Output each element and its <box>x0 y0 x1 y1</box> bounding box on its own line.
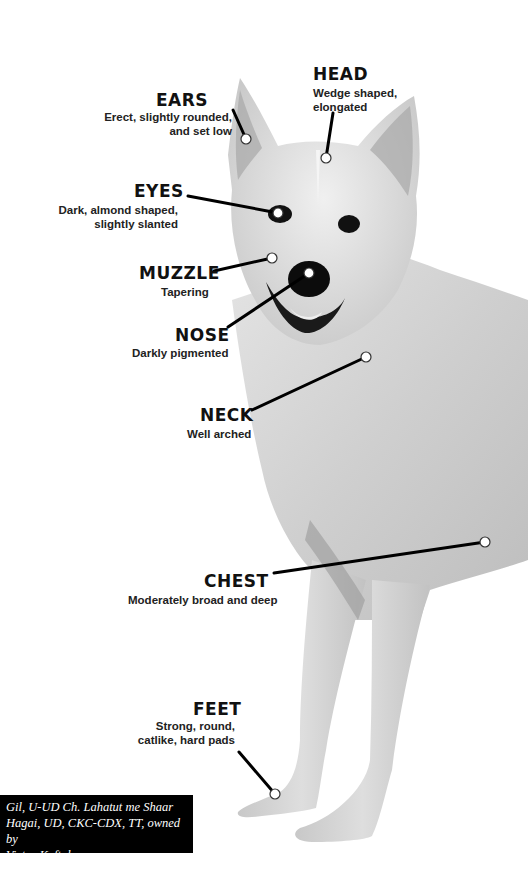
marker-neck <box>361 352 371 362</box>
label-desc-chest: Moderately broad and deep <box>128 593 278 607</box>
marker-muzzle <box>267 253 277 263</box>
photo-caption: Gil, U-UD Ch. Lahatut me Shaar Hagai, UD… <box>0 795 193 853</box>
label-desc-muzzle: Tapering <box>161 285 209 299</box>
desc-line: catlike, hard pads <box>138 733 235 747</box>
caption-line: Victor Kaftal. <box>6 847 187 863</box>
marker-nose <box>304 268 314 278</box>
label-desc-eyes: Dark, almond shaped, slightly slanted <box>58 203 178 231</box>
eye-right <box>338 215 360 233</box>
label-title-muzzle: MUZZLE <box>139 263 220 284</box>
desc-line: slightly slanted <box>58 217 178 231</box>
label-title-neck: NECK <box>200 405 254 426</box>
label-title-head: HEAD <box>313 64 368 85</box>
marker-chest <box>480 537 490 547</box>
caption-line: Gil, U-UD Ch. Lahatut me Shaar <box>6 799 187 815</box>
desc-line: elongated <box>313 100 397 114</box>
desc-line: Wedge shaped, <box>313 86 397 100</box>
dog-nose <box>288 261 330 297</box>
caption-line: Hagai, UD, CKC-CDX, TT, owned by <box>6 815 187 847</box>
desc-line: and set low <box>104 124 232 138</box>
label-desc-head: Wedge shaped, elongated <box>313 86 397 114</box>
label-desc-neck: Well arched <box>187 427 251 441</box>
dog-illustration <box>0 0 528 890</box>
marker-head <box>321 153 331 163</box>
label-title-feet: FEET <box>193 699 241 720</box>
label-title-nose: NOSE <box>175 325 230 346</box>
label-title-ears: EARS <box>156 90 208 111</box>
label-desc-feet: Strong, round, catlike, hard pads <box>138 719 235 747</box>
label-desc-nose: Darkly pigmented <box>132 346 229 360</box>
marker-eyes <box>273 208 283 218</box>
label-desc-ears: Erect, slightly rounded, and set low <box>104 110 232 138</box>
desc-line: Erect, slightly rounded, <box>104 110 232 124</box>
label-title-chest: CHEST <box>204 571 269 592</box>
desc-line: Strong, round, <box>138 719 235 733</box>
label-title-eyes: EYES <box>134 181 184 202</box>
desc-line: Dark, almond shaped, <box>58 203 178 217</box>
marker-ears <box>241 134 251 144</box>
marker-feet <box>270 789 280 799</box>
